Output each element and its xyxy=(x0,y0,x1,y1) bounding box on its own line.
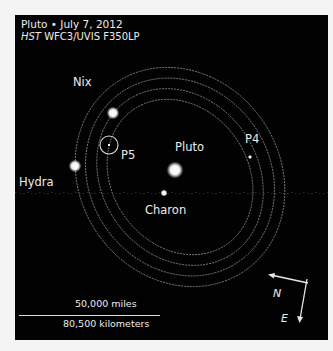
nix-moon xyxy=(107,107,120,120)
pluto-moon xyxy=(167,162,184,179)
p4-label: P4 xyxy=(245,132,259,146)
compass-north-label: N xyxy=(273,287,281,300)
image-title: Pluto • July 7, 2012 xyxy=(21,18,123,30)
scale-miles: 50,000 miles xyxy=(75,298,137,309)
p4-moon xyxy=(248,155,252,159)
compass-icon xyxy=(265,273,325,339)
instrument-name: WFC3/UVIS F350LP xyxy=(41,31,140,42)
hubble-image-panel: Pluto • July 7, 2012 HST WFC3/UVIS F350L… xyxy=(15,15,328,340)
pluto-label: Pluto xyxy=(175,140,204,154)
charon-moon xyxy=(161,190,168,197)
orbit-path xyxy=(63,56,297,298)
p5-label: P5 xyxy=(121,148,135,162)
orbit-path xyxy=(77,71,282,283)
nix-label: Nix xyxy=(73,75,92,89)
charon-label: Charon xyxy=(145,203,186,217)
scale-bar xyxy=(19,315,160,316)
telescope-name: HST xyxy=(21,31,41,42)
p5-moon xyxy=(108,144,111,147)
hydra-label: Hydra xyxy=(19,175,54,189)
hydra-moon xyxy=(69,160,82,173)
scale-kilometers: 80,500 kilometers xyxy=(63,318,149,329)
instrument-caption: HST WFC3/UVIS F350LP xyxy=(21,31,140,42)
compass-east-label: E xyxy=(281,312,288,325)
